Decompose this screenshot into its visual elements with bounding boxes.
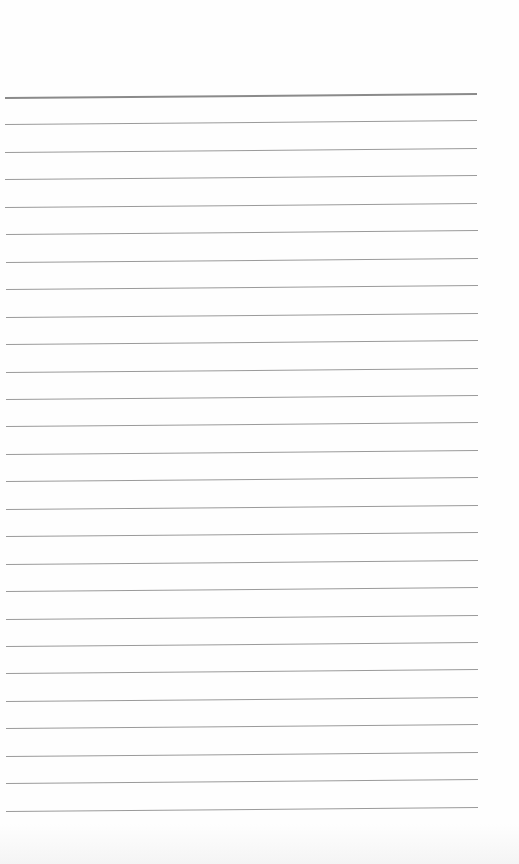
page-bottom-shadow (0, 824, 519, 864)
ruled-line (6, 477, 478, 482)
ruled-line (6, 258, 478, 263)
ruled-line (6, 505, 478, 510)
ruled-line (6, 395, 478, 400)
ruled-line (5, 175, 477, 180)
ruled-line (6, 642, 478, 647)
ruled-line (6, 285, 478, 290)
ruled-line (5, 203, 477, 208)
ruled-line (6, 697, 478, 702)
ruled-line (5, 93, 477, 99)
ruled-line (6, 615, 478, 620)
ruled-line (6, 340, 478, 345)
ruled-line (5, 148, 477, 153)
ruled-line (6, 368, 478, 373)
ruled-line (6, 807, 478, 812)
ruled-line (5, 120, 477, 125)
lined-paper-sheet (0, 0, 519, 864)
ruled-line (6, 779, 478, 784)
ruled-line (6, 422, 478, 427)
ruled-line (5, 230, 477, 235)
ruled-line (6, 587, 478, 592)
ruled-line (6, 532, 478, 537)
ruled-line (6, 560, 478, 565)
ruled-line (6, 752, 478, 757)
ruled-line (6, 313, 478, 318)
ruled-line (6, 724, 478, 729)
ruled-line (6, 450, 478, 455)
ruled-line (6, 669, 478, 674)
